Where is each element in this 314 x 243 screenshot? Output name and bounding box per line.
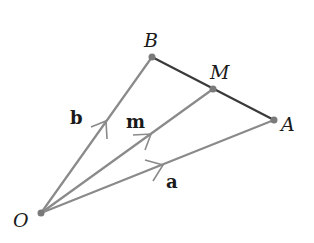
label-a: A xyxy=(279,113,295,135)
label-vector-a: a xyxy=(166,171,178,192)
vector-diagram: B M A O b m a xyxy=(0,0,314,243)
vector-a-line xyxy=(41,120,274,213)
point-o xyxy=(38,210,45,217)
label-o: O xyxy=(13,209,29,231)
point-b xyxy=(149,54,156,61)
vector-m-line xyxy=(41,89,213,213)
label-b: B xyxy=(143,29,158,51)
label-vector-b: b xyxy=(70,107,83,128)
point-a xyxy=(271,117,278,124)
point-m xyxy=(210,86,217,93)
label-m: M xyxy=(209,61,230,83)
label-vector-m: m xyxy=(126,111,145,132)
